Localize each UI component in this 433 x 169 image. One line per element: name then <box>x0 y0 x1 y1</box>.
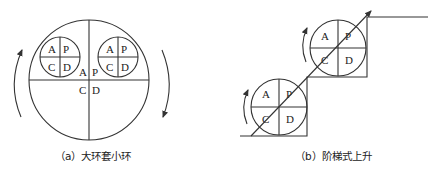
counterclockwise-arrow-icon <box>14 50 22 117</box>
upward-trend-arrow-icon <box>251 11 371 136</box>
upper-rotation-arrow-icon <box>303 28 307 62</box>
upper-label-d: D <box>345 54 353 66</box>
small-right-label-c: C <box>106 61 113 73</box>
caption-b: （b）阶梯式上升 <box>295 150 372 162</box>
big-label-c: C <box>79 84 86 96</box>
lower-rotation-arrow-icon <box>244 90 248 124</box>
upper-label-a: A <box>321 30 329 42</box>
upper-circle: A P C D <box>310 20 366 76</box>
caption-a: （a）大环套小环 <box>55 150 131 162</box>
big-label-p: P <box>92 66 98 78</box>
big-label-d: D <box>92 84 100 96</box>
pdca-diagram: A P C D A P C D A P C D （a）大环套小环 <box>0 0 433 169</box>
small-right-label-a: A <box>106 43 114 55</box>
lower-label-a: A <box>262 88 270 100</box>
small-left-label-c: C <box>48 61 55 73</box>
big-label-a: A <box>79 66 87 78</box>
small-circle-right: A P C D <box>98 37 138 77</box>
small-right-label-d: D <box>121 61 129 73</box>
clockwise-arrow-icon <box>162 50 169 117</box>
small-left-label-p: P <box>63 43 69 55</box>
small-circle-left: A P C D <box>40 37 80 77</box>
small-left-label-a: A <box>48 43 56 55</box>
small-left-label-d: D <box>63 61 71 73</box>
figure-a: A P C D A P C D A P C D （a）大环套小环 <box>14 20 169 162</box>
small-right-label-p: P <box>121 43 127 55</box>
figure-b: A P C D A P C D （b）阶梯式上升 <box>240 11 428 162</box>
lower-label-d: D <box>286 113 294 125</box>
upper-label-p: P <box>345 30 351 42</box>
